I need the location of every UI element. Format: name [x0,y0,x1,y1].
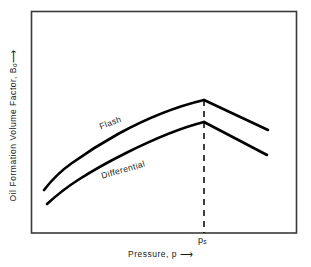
bubble-point-pressure-label: ps [198,235,207,245]
figure-container: Oil Formation Volume Factor, Bo⟶ Pressur… [0,0,311,267]
plot-frame [32,12,297,234]
y-axis-label: Oil Formation Volume Factor, Bo⟶ [8,6,24,246]
x-axis-label-text: Pressure, p [128,249,177,259]
x-axis-arrow-icon: ⟶ [180,249,193,259]
x-axis-label: Pressure, p ⟶ [128,249,193,259]
bubble-point-subscript: s [203,238,206,245]
y-axis-label-subscript: o [11,63,18,67]
y-axis-label-text: Oil Formation Volume Factor, B [8,67,18,202]
plot-canvas [0,0,311,267]
y-axis-arrow-icon: ⟶ [8,50,18,63]
